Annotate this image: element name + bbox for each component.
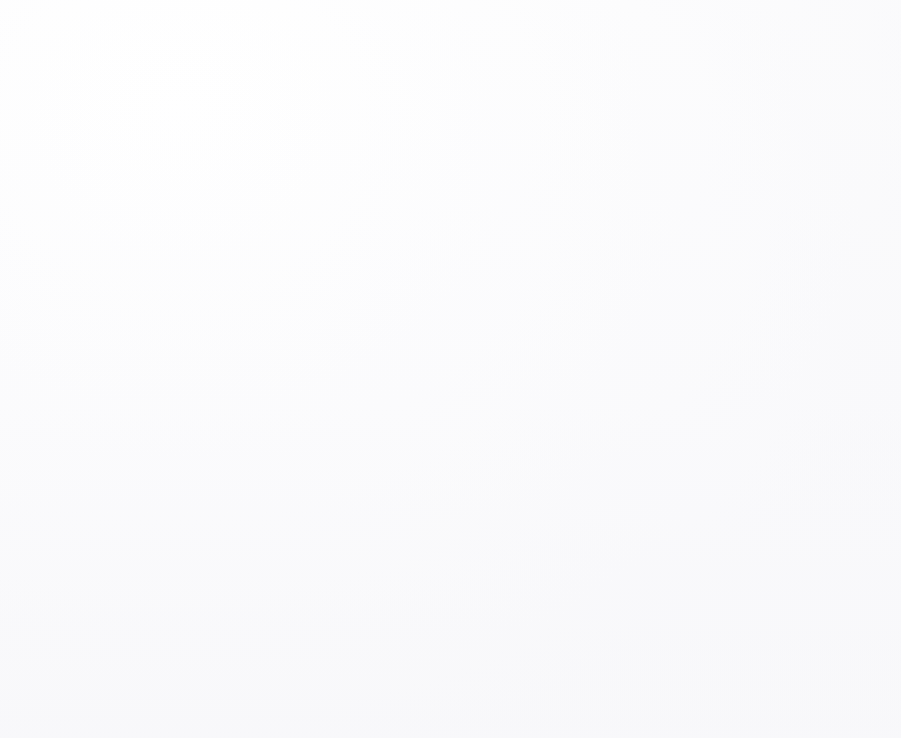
- category-tick-label: Nov: [526, 523, 546, 554]
- data-label: 91%: [516, 29, 555, 51]
- data-label: 1,93,412: [704, 111, 780, 133]
- category-tick-label: Mar: [240, 523, 260, 553]
- right-axis-tick: 90%: [794, 84, 829, 104]
- left-axis-tick: 2,00,000: [69, 130, 137, 150]
- chart-legend: Number of mediation cases Number of succ…: [133, 586, 530, 706]
- category-tick-label: Sept: [455, 523, 475, 559]
- right-axis-tick: 10%: [794, 456, 829, 476]
- right-axis-tick: 30%: [794, 363, 829, 383]
- right-axis-tick: 100%: [794, 37, 838, 57]
- category-tick-label: Oct: [490, 523, 510, 550]
- category-tick-label: Aug: [419, 523, 439, 554]
- right-axis-tick: 80%: [794, 130, 829, 150]
- legend-item-successful-cases: Number of successful mediation cases: [133, 626, 530, 666]
- category-tick-label: Jan: [168, 523, 188, 551]
- category-tick-label: May: [311, 523, 331, 556]
- left-axis-tick: 1,50,000: [69, 223, 137, 243]
- right-axis-tick: 70%: [794, 177, 829, 197]
- left-axis-tick: 50,000: [84, 410, 137, 430]
- category-tick-label: Apr: [275, 523, 295, 550]
- category-tick-label: Dec: [562, 523, 582, 554]
- left-axis-tick: -: [131, 503, 137, 523]
- right-axis-tick: 0%: [794, 503, 819, 523]
- horizontal-lines-swatch-icon: [133, 598, 189, 615]
- data-label: 95%: [741, 1, 780, 23]
- left-axis-tick: 2,50,000: [69, 37, 137, 57]
- data-label: 67%: [137, 156, 176, 178]
- category-tick-label: Jun: [777, 523, 797, 551]
- legend-item-success-rate: Mediation success rate: [133, 666, 530, 706]
- data-label: 9,531: [292, 450, 341, 472]
- category-tick-label: Jul: [383, 523, 403, 545]
- right-axis-tick: 50%: [794, 270, 829, 290]
- category-tick-label: Apr: [705, 523, 725, 550]
- right-axis-tick: 60%: [794, 223, 829, 243]
- plot-area: -50,0001,00,0001,50,0002,00,0002,50,000 …: [143, 47, 788, 513]
- data-label: 72%: [325, 124, 364, 146]
- left-axis-tick: 1,00,000: [69, 317, 137, 337]
- category-tick-label: Jun: [347, 523, 367, 551]
- success-rate-line: [143, 47, 788, 513]
- legend-label-success-rate: Mediation success rate: [199, 675, 397, 697]
- line-swatch-icon: [133, 684, 189, 691]
- right-axis-tick: 20%: [794, 410, 829, 430]
- category-tick-label: May: [741, 523, 761, 556]
- category-tick-label: Feb: [634, 523, 654, 553]
- legend-label-total-cases: Number of mediation cases: [199, 595, 434, 617]
- data-label: 1,00,887: [491, 288, 567, 310]
- category-tick-label: Mar: [670, 523, 690, 553]
- category-tick-label: Feb: [204, 523, 224, 553]
- right-axis-tick: 40%: [794, 317, 829, 337]
- chart-frame: -50,0001,00,0001,50,0002,00,0002,50,000 …: [28, 25, 874, 708]
- diagonal-hatch-swatch-icon: [133, 638, 189, 655]
- category-tick-label: Jan: [598, 523, 618, 551]
- legend-label-successful-cases: Number of successful mediation cases: [199, 635, 530, 657]
- legend-item-total-cases: Number of mediation cases: [133, 586, 530, 626]
